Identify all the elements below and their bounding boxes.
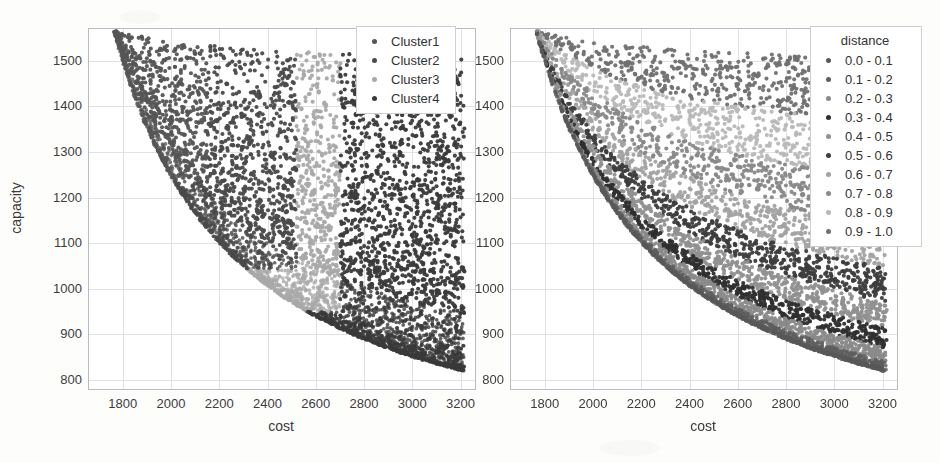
x-tick-label: 2200 [193, 396, 245, 411]
legend-item[interactable]: 0.0 - 0.1 [817, 51, 913, 70]
legend-item-label: Cluster2 [385, 53, 439, 68]
cluster-legend[interactable]: Cluster1Cluster2Cluster3Cluster4 [356, 26, 456, 114]
legend-item-label: 0.3 - 0.4 [839, 110, 893, 125]
y-tick-label: 900 [36, 326, 82, 341]
legend-item-label: 0.4 - 0.5 [839, 129, 893, 144]
legend-title: distance [817, 33, 913, 48]
y-tick-label: 900 [458, 326, 504, 341]
legend-item[interactable]: 0.1 - 0.2 [817, 70, 913, 89]
y-tick-label: 1500 [458, 53, 504, 68]
x-tick-label: 1800 [519, 396, 571, 411]
y-tick-label: 1100 [458, 235, 504, 250]
legend-item[interactable]: 0.5 - 0.6 [817, 146, 913, 165]
legend-marker-icon [817, 77, 839, 82]
legend-marker-icon [817, 172, 839, 177]
y-tick-label: 1000 [36, 281, 82, 296]
y-tick-label: 1400 [458, 98, 504, 113]
y-tick-label: 1200 [458, 190, 504, 205]
legend-item-label: Cluster1 [385, 34, 439, 49]
left-scatter-panel: capacity 150014001300120011001000900800 … [0, 0, 470, 463]
figure-root: capacity 150014001300120011001000900800 … [0, 0, 940, 463]
right-scatter-panel: 150014001300120011001000900800 180020002… [470, 0, 940, 463]
right-x-axis-label: cost [663, 418, 743, 434]
legend-item[interactable]: 0.3 - 0.4 [817, 108, 913, 127]
y-tick-label: 1300 [458, 144, 504, 159]
x-tick-label: 2200 [615, 396, 667, 411]
y-tick-label: 1500 [36, 53, 82, 68]
legend-item-label: 0.9 - 1.0 [839, 224, 893, 239]
legend-item-label: 0.0 - 0.1 [839, 53, 893, 68]
x-tick-label: 2600 [290, 396, 342, 411]
legend-item-label: 0.7 - 0.8 [839, 186, 893, 201]
x-tick-label: 2800 [760, 396, 812, 411]
y-tick-label: 1300 [36, 144, 82, 159]
legend-marker-icon [363, 39, 385, 44]
y-tick-label: 1000 [458, 281, 504, 296]
legend-item-label: 0.5 - 0.6 [839, 148, 893, 163]
y-tick-label: 800 [36, 372, 82, 387]
x-tick-label: 1800 [97, 396, 149, 411]
left-y-axis-label: capacity [8, 178, 24, 238]
x-tick-label: 3000 [386, 396, 438, 411]
x-tick-label: 2400 [664, 396, 716, 411]
legend-item[interactable]: 0.2 - 0.3 [817, 89, 913, 108]
x-tick-label: 3200 [857, 396, 909, 411]
legend-marker-icon [817, 153, 839, 158]
legend-item[interactable]: Cluster3 [363, 70, 447, 89]
y-tick-label: 1200 [36, 190, 82, 205]
x-tick-label: 2400 [242, 396, 294, 411]
x-tick-label: 2800 [338, 396, 390, 411]
legend-item-label: Cluster4 [385, 91, 439, 106]
legend-item-label: 0.6 - 0.7 [839, 167, 893, 182]
legend-item[interactable]: 0.7 - 0.8 [817, 184, 913, 203]
legend-marker-icon [817, 134, 839, 139]
legend-item-label: 0.2 - 0.3 [839, 91, 893, 106]
legend-marker-icon [817, 96, 839, 101]
legend-item[interactable]: 0.6 - 0.7 [817, 165, 913, 184]
legend-item-label: 0.1 - 0.2 [839, 72, 893, 87]
legend-marker-icon [363, 96, 385, 101]
y-tick-label: 800 [458, 372, 504, 387]
legend-item[interactable]: Cluster4 [363, 89, 447, 108]
x-tick-label: 2000 [567, 396, 619, 411]
legend-item-label: 0.8 - 0.9 [839, 205, 893, 220]
legend-marker-icon [817, 115, 839, 120]
legend-item-label: Cluster3 [385, 72, 439, 87]
x-tick-label: 3000 [808, 396, 860, 411]
legend-marker-icon [817, 210, 839, 215]
x-tick-label: 2000 [145, 396, 197, 411]
legend-item[interactable]: Cluster1 [363, 32, 447, 51]
left-x-axis-label: cost [241, 418, 321, 434]
legend-marker-icon [363, 58, 385, 63]
legend-marker-icon [817, 229, 839, 234]
legend-marker-icon [817, 58, 839, 63]
y-tick-label: 1400 [36, 98, 82, 113]
legend-item[interactable]: Cluster2 [363, 51, 447, 70]
legend-marker-icon [817, 191, 839, 196]
legend-item[interactable]: 0.8 - 0.9 [817, 203, 913, 222]
distance-legend[interactable]: distance0.0 - 0.10.1 - 0.20.2 - 0.30.3 -… [810, 26, 922, 247]
legend-item[interactable]: 0.9 - 1.0 [817, 222, 913, 241]
x-tick-label: 2600 [712, 396, 764, 411]
y-tick-label: 1100 [36, 235, 82, 250]
legend-item[interactable]: 0.4 - 0.5 [817, 127, 913, 146]
legend-marker-icon [363, 77, 385, 82]
